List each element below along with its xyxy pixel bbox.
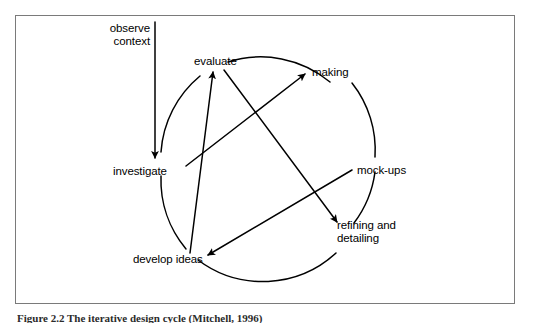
node-label-investigate: investigate [113,165,167,178]
figure-frame [15,15,515,304]
node-label-making: making [312,66,348,79]
node-label-refining-and-detailing: refining and detailing [337,219,396,245]
node-label-evaluate: evaluate [194,55,237,68]
node-label-develop-ideas: develop ideas [133,253,203,266]
figure-caption: Figure 2.2 The iterative design cycle (M… [17,312,487,323]
node-label-observe-context: observe context [88,22,150,48]
node-label-mock-ups: mock-ups [357,164,406,177]
figure-root: observe context evaluate making investig… [0,0,534,323]
